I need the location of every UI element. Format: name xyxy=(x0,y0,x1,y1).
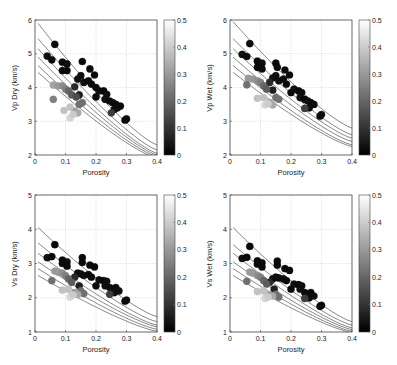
x-tick-label: 0.1 xyxy=(256,158,266,165)
panel-vp-wet: 00.10.20.30.42345600.10.20.30.40.5Vp Wet… xyxy=(205,17,382,178)
x-tick-label: 0.3 xyxy=(317,158,327,165)
data-point xyxy=(50,96,57,103)
y-tick-label: 2 xyxy=(223,152,227,159)
data-point xyxy=(106,291,113,298)
data-point xyxy=(243,81,250,88)
x-tick-label: 0.1 xyxy=(256,335,266,342)
data-point xyxy=(246,243,253,250)
y-tick-label: 2 xyxy=(28,152,32,159)
y-axis-label: Vs Wet (km/s) xyxy=(205,240,214,287)
data-point xyxy=(63,67,70,74)
colorbar-tick-label: 0.4 xyxy=(177,219,187,226)
x-tick-label: 0.2 xyxy=(286,158,296,165)
x-tick-label: 0 xyxy=(228,158,232,165)
y-tick-label: 3 xyxy=(28,118,32,125)
data-point xyxy=(246,40,253,47)
y-tick-label: 4 xyxy=(28,226,32,233)
colorbar: 00.10.20.30.40.5 xyxy=(359,192,382,336)
colorbar-tick-label: 0.2 xyxy=(372,274,382,281)
x-tick-label: 0.3 xyxy=(317,335,327,342)
colorbar-tick-label: 0.2 xyxy=(372,98,382,105)
panel-vs-wet: 00.10.20.30.41234500.10.20.30.40.5Vs Wet… xyxy=(205,192,382,355)
colorbar-tick-label: 0.2 xyxy=(177,98,187,105)
colorbar-tick-label: 0.1 xyxy=(372,125,382,132)
data-point xyxy=(48,277,55,284)
data-point xyxy=(79,99,86,106)
data-point xyxy=(265,100,272,107)
data-point xyxy=(283,277,290,284)
data-point xyxy=(316,303,323,310)
y-tick-label: 5 xyxy=(223,50,227,57)
colorbar-tick-label: 0.5 xyxy=(177,17,187,24)
data-point xyxy=(286,267,293,274)
data-point xyxy=(258,263,265,270)
y-tick-label: 4 xyxy=(28,84,32,91)
y-tick-label: 3 xyxy=(28,260,32,267)
y-axis-label: Vp Wet (km/s) xyxy=(205,64,214,112)
x-tick-label: 0.2 xyxy=(286,335,296,342)
colorbar-tick-label: 0.1 xyxy=(177,125,187,132)
data-point xyxy=(274,262,281,269)
x-axis-label: Porosity xyxy=(277,345,304,354)
colorbar-tick-label: 0.4 xyxy=(372,44,382,51)
colorbar-tick-label: 0.5 xyxy=(372,192,382,199)
data-point xyxy=(263,86,270,93)
colorbar: 00.10.20.30.40.5 xyxy=(164,17,187,159)
data-point xyxy=(274,64,281,71)
y-tick-label: 5 xyxy=(223,192,227,199)
data-point xyxy=(88,274,95,281)
data-point xyxy=(301,105,308,112)
colorbar-tick-label: 0.3 xyxy=(177,246,187,253)
colorbar-tick-label: 0 xyxy=(372,152,376,159)
colorbar-tick-label: 0.3 xyxy=(372,246,382,253)
data-point xyxy=(70,291,77,298)
x-tick-label: 0.1 xyxy=(61,158,71,165)
data-point xyxy=(265,294,272,301)
data-point xyxy=(70,111,77,118)
panel-vp-dry: 00.10.20.30.42345600.10.20.30.40.5Vp Dry… xyxy=(10,17,187,178)
colorbar-tick-label: 0.3 xyxy=(372,71,382,78)
y-tick-label: 2 xyxy=(28,294,32,301)
data-point xyxy=(275,96,282,103)
y-tick-label: 4 xyxy=(223,84,227,91)
y-tick-label: 3 xyxy=(223,118,227,125)
y-tick-label: 1 xyxy=(223,329,227,336)
x-tick-label: 0.4 xyxy=(347,335,357,342)
x-tick-label: 0.2 xyxy=(91,335,101,342)
x-axis-label: Porosity xyxy=(82,168,109,177)
panel-vs-dry: 00.10.20.30.41234500.10.20.30.40.5Vs Dry… xyxy=(10,192,187,355)
data-point xyxy=(91,263,98,270)
colorbar-tick-label: 0.2 xyxy=(177,274,187,281)
y-tick-label: 2 xyxy=(223,294,227,301)
data-point xyxy=(86,65,93,72)
colorbar-tick-label: 0.1 xyxy=(177,301,187,308)
x-tick-label: 0 xyxy=(33,158,37,165)
y-tick-label: 5 xyxy=(28,50,32,57)
x-tick-label: 0.3 xyxy=(122,158,132,165)
colorbar-tick-label: 0.3 xyxy=(177,71,187,78)
data-point xyxy=(48,253,55,260)
data-point xyxy=(286,71,293,78)
data-point xyxy=(316,113,323,120)
data-point xyxy=(258,65,265,72)
data-point xyxy=(283,81,290,88)
colorbar-tick-label: 0.4 xyxy=(372,219,382,226)
y-axis-label: Vp Dry (km/s) xyxy=(10,65,19,111)
data-point xyxy=(63,263,70,270)
data-point xyxy=(65,286,72,293)
data-point xyxy=(260,287,267,294)
data-point xyxy=(243,53,250,60)
x-axis-label: Porosity xyxy=(277,168,304,177)
data-point xyxy=(48,56,55,63)
y-tick-label: 1 xyxy=(28,329,32,336)
data-point xyxy=(92,93,99,100)
data-point xyxy=(51,41,58,48)
data-point xyxy=(67,104,74,111)
colorbar-tick-label: 0 xyxy=(177,329,181,336)
data-point xyxy=(263,281,270,288)
x-axis-label: Porosity xyxy=(82,345,109,354)
colorbar: 00.10.20.30.40.5 xyxy=(359,17,382,159)
data-point xyxy=(63,60,70,67)
colorbar-tick-label: 0.4 xyxy=(177,44,187,51)
data-point xyxy=(71,83,78,90)
